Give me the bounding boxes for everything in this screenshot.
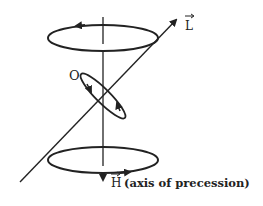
l-label: L [185, 14, 194, 33]
h-label-text: H [111, 176, 121, 190]
arrow-right-icon [120, 172, 130, 173]
precession-diagram: O L H (axis of precession) [0, 0, 263, 206]
l-label-text: L [185, 19, 193, 33]
origin-label: O [69, 68, 80, 83]
h-label-note: (axis of precession) [124, 176, 250, 190]
arrow-left-icon [76, 25, 85, 26]
h-label: H (axis of precession) [111, 172, 250, 190]
